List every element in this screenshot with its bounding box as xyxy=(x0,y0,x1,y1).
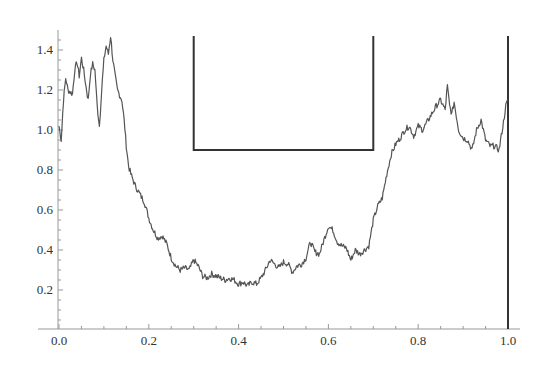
x-tick-label: 0.4 xyxy=(230,333,247,348)
x-tick-label: 0.6 xyxy=(320,333,337,348)
y-tick-label: 0.6 xyxy=(37,202,54,217)
series-line-path xyxy=(59,38,508,287)
y-tick-label: 0.2 xyxy=(37,282,53,297)
axes xyxy=(38,30,520,329)
cup-bracket xyxy=(194,36,374,150)
y-tick-label: 1.2 xyxy=(37,82,53,97)
y-tick-label: 1.4 xyxy=(37,42,54,57)
y-tick-label: 0.8 xyxy=(37,162,53,177)
y-tick-label: 1.0 xyxy=(37,122,53,137)
x-tick-label: 0.8 xyxy=(410,333,426,348)
y-tick-label: 0.4 xyxy=(37,242,54,257)
chart: 0.00.20.40.60.81.0 0.20.40.60.81.01.21.4 xyxy=(0,0,542,372)
data-series xyxy=(59,38,508,287)
x-axis-ticks: 0.00.20.40.60.81.0 xyxy=(51,324,516,348)
x-tick-label: 0.2 xyxy=(141,333,157,348)
x-tick-label: 1.0 xyxy=(500,333,516,348)
y-axis-ticks: 0.20.40.60.81.01.21.4 xyxy=(37,40,63,320)
x-tick-label: 0.0 xyxy=(51,333,67,348)
